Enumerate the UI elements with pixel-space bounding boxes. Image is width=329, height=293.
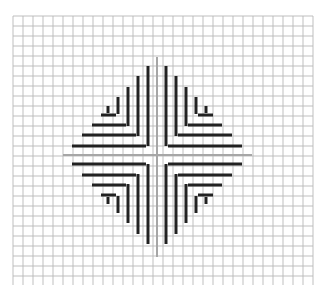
background bbox=[0, 0, 329, 293]
graph-paper-diagram bbox=[0, 0, 329, 293]
diagram-canvas bbox=[0, 0, 329, 293]
